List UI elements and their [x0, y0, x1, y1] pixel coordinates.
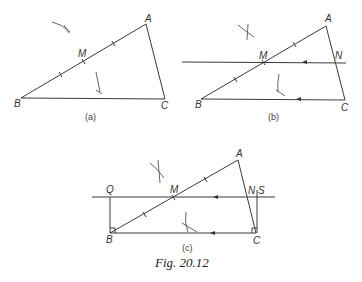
label-b: B	[195, 99, 202, 110]
label-b: B	[14, 98, 21, 109]
label-c: C	[161, 100, 169, 111]
construction-arc	[182, 223, 197, 232]
panel-b: A B C M N (b)	[182, 13, 349, 122]
construction-arc	[64, 25, 69, 33]
label-c: C	[341, 102, 349, 113]
label-m: M	[78, 48, 87, 59]
panel-a: A B C M (a)	[14, 13, 169, 122]
construction-arc	[150, 163, 164, 178]
panel-label-c: (c)	[182, 243, 193, 253]
parallel-arrow-icon	[210, 231, 215, 235]
label-a: A	[235, 148, 243, 159]
triangle-abc	[21, 24, 165, 99]
construction-arc	[238, 25, 254, 37]
label-m: M	[259, 50, 268, 61]
construction-arc	[96, 90, 102, 94]
figure-20-12: A B C M (a) A B C M N (b)	[0, 0, 362, 282]
parallel-arrow-icon	[302, 60, 307, 64]
construction-arc	[278, 74, 279, 92]
label-n: N	[335, 50, 343, 61]
figure-caption: Fig. 20.12	[154, 255, 209, 270]
label-q: Q	[106, 184, 114, 195]
construction-arc	[96, 72, 100, 92]
label-c: C	[253, 235, 261, 246]
construction-arc	[247, 24, 248, 40]
construction-arc	[185, 212, 188, 232]
panel-c: A B C M N S Q (c)	[92, 148, 275, 253]
label-a: A	[324, 13, 332, 24]
panel-label-a: (a)	[85, 112, 96, 122]
label-a: A	[144, 13, 152, 24]
label-n: N	[248, 185, 256, 196]
parallel-arrow-icon	[213, 195, 218, 199]
panel-label-b: (b)	[268, 112, 279, 122]
label-m: M	[170, 184, 179, 195]
construction-arc	[158, 160, 160, 183]
label-b: B	[106, 234, 113, 245]
construction-arc	[276, 90, 285, 96]
parallel-arrow-icon	[296, 97, 301, 101]
label-s: S	[258, 185, 265, 196]
